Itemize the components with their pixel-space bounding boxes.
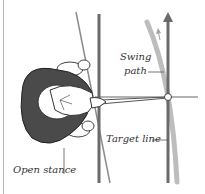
golfer-arms (50, 86, 93, 116)
target-line-label: Target line (106, 134, 161, 144)
open-stance-label: Open stance (13, 165, 76, 175)
golfer-hands (90, 98, 106, 109)
golf-open-stance-diagram: Swing path Target line Open stance (0, 0, 205, 194)
swing-path-label-1: Swing (120, 52, 151, 62)
swing-path-curve (147, 22, 177, 182)
target-arrow-icon (163, 12, 173, 22)
ball-icon (165, 94, 172, 101)
swing-path-arrowhead (156, 28, 161, 34)
swing-path-label-2: path (124, 66, 147, 76)
